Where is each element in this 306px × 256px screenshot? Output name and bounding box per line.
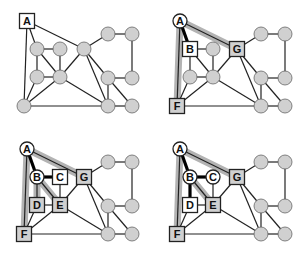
graph-node xyxy=(254,99,268,113)
graph-node xyxy=(278,227,292,241)
node-label: B xyxy=(186,43,194,55)
graph-node xyxy=(101,199,115,213)
node-label: C xyxy=(209,171,217,183)
graph-node xyxy=(101,99,115,113)
graph-edge xyxy=(24,21,27,106)
node-label: G xyxy=(233,171,242,183)
graph-node xyxy=(254,199,268,213)
graph-node xyxy=(254,27,268,41)
node-label: F xyxy=(174,228,181,240)
node-label: D xyxy=(186,199,194,211)
graph-edge xyxy=(60,77,108,106)
node-label: F xyxy=(174,100,181,112)
graph-diagram: AABGFABCGDEFABCGDEF xyxy=(0,0,306,256)
node-label: G xyxy=(233,43,242,55)
graph-node xyxy=(101,155,115,169)
node-label: A xyxy=(23,15,31,27)
graph-node xyxy=(206,42,220,56)
node-label: B xyxy=(186,171,194,183)
graph-node xyxy=(254,71,268,85)
graph-node xyxy=(278,71,292,85)
graph-node xyxy=(101,227,115,241)
node-label: A xyxy=(23,143,31,155)
graph-node xyxy=(183,70,197,84)
graph-node xyxy=(125,27,139,41)
node-label: A xyxy=(176,143,184,155)
node-label: E xyxy=(209,199,216,211)
graph-node xyxy=(278,27,292,41)
node-label: G xyxy=(80,171,89,183)
node-label: E xyxy=(56,199,63,211)
graph-node xyxy=(101,27,115,41)
graph-edge xyxy=(213,77,261,106)
graph-node xyxy=(206,70,220,84)
graph-node xyxy=(77,42,91,56)
graph-node xyxy=(254,155,268,169)
graph-node xyxy=(17,99,31,113)
panel-step-2: ABGF xyxy=(170,14,293,114)
panel-step-1: A xyxy=(17,14,139,114)
diagram-canvas: AABGFABCGDEFABCGDEF xyxy=(0,0,306,256)
graph-node xyxy=(125,227,139,241)
graph-node xyxy=(254,227,268,241)
graph-node xyxy=(125,99,139,113)
node-label: F xyxy=(21,228,28,240)
panel-step-4: ABCGDEF xyxy=(170,142,293,242)
graph-node xyxy=(125,199,139,213)
node-label: A xyxy=(176,15,184,27)
graph-node xyxy=(53,42,67,56)
node-label: B xyxy=(33,171,41,183)
graph-node xyxy=(125,155,139,169)
graph-node xyxy=(101,71,115,85)
graph-node xyxy=(30,70,44,84)
node-label: D xyxy=(33,199,41,211)
graph-node xyxy=(278,199,292,213)
panel-step-3: ABCGDEF xyxy=(17,142,140,242)
graph-node xyxy=(278,155,292,169)
graph-node xyxy=(125,71,139,85)
graph-node xyxy=(53,70,67,84)
graph-node xyxy=(278,99,292,113)
node-label: C xyxy=(56,171,64,183)
graph-node xyxy=(30,42,44,56)
